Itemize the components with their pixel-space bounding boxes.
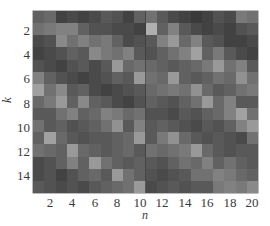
heatmap-cell <box>224 23 235 35</box>
heatmap-cell <box>67 132 78 144</box>
heatmap-cell <box>56 11 67 23</box>
heatmap-cell <box>168 120 179 132</box>
heatmap-cell <box>247 47 258 59</box>
heatmap-cell <box>89 144 100 156</box>
heatmap-cell <box>112 84 123 96</box>
heatmap-cell <box>247 23 258 35</box>
heatmap-cell <box>213 157 224 169</box>
heatmap-cell <box>236 120 247 132</box>
heatmap-cell <box>89 23 100 35</box>
heatmap-cell <box>168 47 179 59</box>
heatmap-cell <box>236 132 247 144</box>
heatmap-cell <box>213 144 224 156</box>
x-tick-label: 12 <box>152 196 172 209</box>
heatmap-cell <box>179 11 190 23</box>
heatmap-cell <box>89 84 100 96</box>
heatmap-cell <box>33 23 44 35</box>
heatmap-cell <box>56 144 67 156</box>
heatmap-cell <box>44 72 55 84</box>
heatmap-cell <box>213 47 224 59</box>
heatmap-cell <box>123 169 134 181</box>
heatmap-cell <box>157 169 168 181</box>
heatmap-cell <box>168 23 179 35</box>
heatmap-cell <box>202 35 213 47</box>
heatmap-cell <box>78 132 89 144</box>
heatmap-cell <box>146 72 157 84</box>
heatmap-cell <box>123 108 134 120</box>
heatmap-cell <box>179 181 190 193</box>
heatmap-cell <box>123 96 134 108</box>
heatmap-cell <box>101 132 112 144</box>
heatmap-cell <box>168 132 179 144</box>
heatmap-cell <box>56 108 67 120</box>
heatmap-cell <box>101 72 112 84</box>
heatmap-cell <box>247 132 258 144</box>
heatmap-cell <box>191 23 202 35</box>
heatmap-cell <box>44 169 55 181</box>
heatmap-cell <box>67 108 78 120</box>
heatmap-cell <box>101 35 112 47</box>
heatmap-cell <box>224 181 235 193</box>
heatmap-cell <box>202 60 213 72</box>
heatmap-cell <box>146 120 157 132</box>
heatmap-cell <box>78 108 89 120</box>
heatmap-cell <box>134 169 145 181</box>
heatmap-cell <box>224 108 235 120</box>
heatmap-cell <box>157 181 168 193</box>
heatmap-cell <box>157 84 168 96</box>
heatmap-cell <box>33 157 44 169</box>
heatmap-cell <box>213 132 224 144</box>
heatmap-cell <box>179 120 190 132</box>
heatmap-cell <box>78 72 89 84</box>
heatmap-cell <box>191 47 202 59</box>
heatmap-cell <box>78 35 89 47</box>
heatmap-cell <box>146 108 157 120</box>
heatmap-cell <box>134 84 145 96</box>
heatmap-cell <box>202 157 213 169</box>
heatmap-cell <box>101 108 112 120</box>
heatmap-cell <box>44 120 55 132</box>
heatmap-cell <box>224 11 235 23</box>
y-tick-label: 6 <box>24 72 31 85</box>
heatmap-cell <box>168 169 179 181</box>
heatmap-cell <box>236 47 247 59</box>
x-tick-label: 6 <box>85 196 105 209</box>
heatmap-cell <box>157 96 168 108</box>
heatmap-cell <box>191 60 202 72</box>
heatmap-cell <box>247 181 258 193</box>
heatmap-cell <box>44 144 55 156</box>
heatmap-cell <box>123 72 134 84</box>
heatmap-cell <box>44 108 55 120</box>
heatmap-cell <box>168 35 179 47</box>
heatmap-cell <box>67 169 78 181</box>
heatmap-cell <box>101 23 112 35</box>
heatmap-cell <box>157 144 168 156</box>
heatmap-cell <box>33 72 44 84</box>
heatmap-cell <box>146 35 157 47</box>
heatmap-cell <box>224 72 235 84</box>
heatmap-cell <box>101 157 112 169</box>
heatmap-cell <box>44 23 55 35</box>
heatmap-cell <box>202 120 213 132</box>
heatmap-cell <box>236 84 247 96</box>
heatmap-cell <box>101 84 112 96</box>
heatmap-cell <box>146 96 157 108</box>
heatmap-cell <box>112 144 123 156</box>
heatmap-cell <box>67 35 78 47</box>
heatmap-cell <box>67 11 78 23</box>
heatmap-cell <box>67 144 78 156</box>
heatmap-cell <box>134 11 145 23</box>
heatmap-cell <box>202 132 213 144</box>
heatmap-cell <box>123 47 134 59</box>
heatmap-cell <box>202 96 213 108</box>
x-tick-label: 8 <box>107 196 127 209</box>
heatmap-cell <box>123 120 134 132</box>
heatmap-cell <box>56 72 67 84</box>
heatmap-cell <box>56 157 67 169</box>
heatmap-cell <box>202 108 213 120</box>
heatmap-cell <box>89 72 100 84</box>
heatmap-cell <box>236 169 247 181</box>
heatmap-cell <box>33 144 44 156</box>
heatmap-cell <box>33 169 44 181</box>
heatmap-cell <box>112 120 123 132</box>
